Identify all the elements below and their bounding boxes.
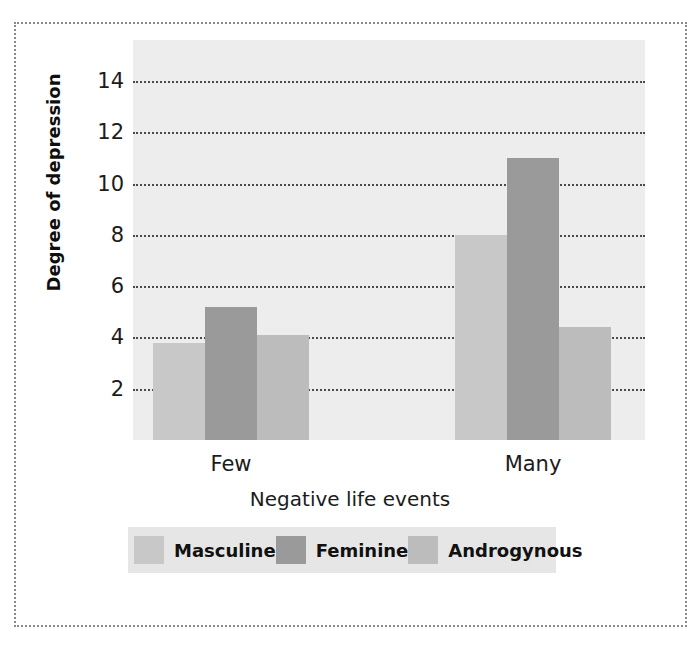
y-tick-label: 2	[111, 377, 124, 401]
legend-item-masculine[interactable]: Masculine	[134, 536, 276, 564]
bar-few-androgynous	[257, 335, 309, 440]
x-tick-label-many: Many	[505, 452, 562, 476]
y-axis-title: Degree of depression	[43, 73, 64, 293]
gridline-14	[133, 81, 645, 83]
bar-few-feminine	[205, 307, 257, 440]
gridline-6	[133, 286, 645, 288]
bar-many-feminine	[507, 158, 559, 440]
x-tick-label-few: Few	[210, 452, 251, 476]
legend-label: Masculine	[174, 540, 276, 561]
legend-label: Feminine	[316, 540, 409, 561]
legend-swatch-icon	[134, 536, 164, 564]
bar-many-masculine	[455, 235, 507, 440]
x-axis-title: Negative life events	[0, 487, 700, 511]
y-tick-label: 4	[111, 325, 124, 349]
bar-few-masculine	[153, 343, 205, 440]
legend: MasculineFeminineAndrogynous	[128, 527, 556, 573]
y-tick-label: 10	[97, 172, 124, 196]
y-tick-label: 6	[111, 274, 124, 298]
legend-swatch-icon	[408, 536, 438, 564]
legend-item-feminine[interactable]: Feminine	[276, 536, 409, 564]
gridline-12	[133, 132, 645, 134]
y-tick-label: 8	[111, 223, 124, 247]
bar-chart-figure: 2468101214 Degree of depression FewMany …	[0, 0, 700, 660]
y-tick-label: 14	[97, 69, 124, 93]
y-axis-ticks: 2468101214	[74, 40, 124, 440]
gridline-8	[133, 235, 645, 237]
legend-item-androgynous[interactable]: Androgynous	[408, 536, 582, 564]
gridline-10	[133, 184, 645, 186]
legend-swatch-icon	[276, 536, 306, 564]
legend-label: Androgynous	[448, 540, 582, 561]
plot-area	[133, 40, 645, 440]
bar-many-androgynous	[559, 327, 611, 440]
y-tick-label: 12	[97, 120, 124, 144]
